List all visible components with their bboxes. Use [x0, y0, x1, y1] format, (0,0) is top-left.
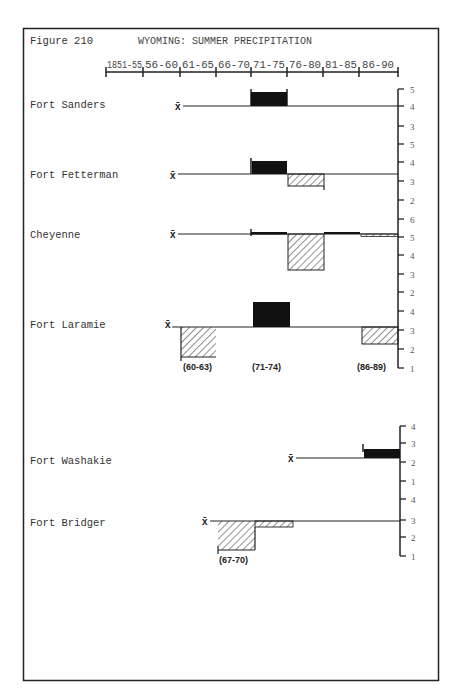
bar-below-mean — [288, 174, 324, 186]
axis-tick-label: 1 — [410, 364, 415, 374]
bar-below-mean — [288, 234, 324, 270]
time-axis: 1851-55 56-60 61-65 66-70 71-75 76-80 81… — [106, 60, 398, 77]
bar-below-mean — [181, 327, 216, 357]
period-label: 56-60 — [145, 60, 178, 71]
axis-tick-label: 1 — [411, 552, 416, 562]
axis-tick-label: 3 — [410, 270, 415, 280]
period-label: 86-90 — [362, 60, 394, 71]
station-fort-laramie: Fort Laramie x̄ (60-63) (71-74) (86-89) — [30, 302, 398, 372]
bar-above-mean — [324, 232, 360, 234]
bar-above-mean — [364, 449, 400, 458]
axis-tick-label: 4 — [410, 307, 415, 317]
mean-symbol: x̄ — [202, 516, 208, 527]
axis-tick-label: 2 — [410, 288, 415, 298]
period-annotation: (67-70) — [219, 555, 248, 565]
period-annotation: (86-89) — [357, 362, 386, 372]
mean-symbol: x̄ — [170, 170, 176, 181]
bar-above-mean — [253, 302, 290, 327]
station-cheyenne: Cheyenne x̄ — [30, 229, 398, 270]
bar-above-mean — [251, 92, 287, 106]
figure-title: WYOMING: SUMMER PRECIPITATION — [138, 36, 312, 47]
period-annotation: (71-74) — [252, 362, 281, 372]
period-label: 61-65 — [182, 60, 214, 71]
figure-number: Figure 210 — [30, 35, 93, 47]
period-label: 1851-55 — [107, 60, 142, 71]
period-label: 66-70 — [218, 60, 250, 71]
mean-symbol: x̄ — [288, 453, 294, 464]
station-fort-fetterman: Fort Fetterman x̄ — [30, 158, 398, 190]
station-label: Fort Bridger — [30, 517, 106, 529]
axis-tick-label: 4 — [410, 102, 415, 112]
axis-tick-label: 3 — [410, 177, 415, 187]
value-axis-lower: 4 3 2 1 4 3 2 1 — [400, 422, 416, 562]
axis-tick-label: 2 — [411, 533, 416, 543]
value-axis-upper: 5 4 3 5 4 3 2 6 5 4 3 2 4 3 2 1 — [398, 85, 415, 374]
station-label: Fort Laramie — [30, 319, 106, 331]
bar-below-mean — [362, 327, 398, 344]
bar-below-mean — [218, 521, 255, 550]
axis-tick-label: 5 — [410, 140, 415, 150]
period-label: 71-75 — [253, 60, 285, 71]
bar-above-mean — [251, 232, 287, 235]
bar-above-mean — [252, 161, 287, 174]
station-label: Fort Fetterman — [30, 169, 118, 181]
station-fort-bridger: Fort Bridger x̄ (67-70) — [30, 516, 400, 565]
bar-below-mean — [255, 521, 293, 527]
axis-tick-label: 6 — [410, 215, 415, 225]
station-fort-washakie: Fort Washakie x̄ — [30, 444, 400, 467]
station-label: Cheyenne — [30, 229, 80, 241]
period-label: 76-80 — [289, 60, 321, 71]
axis-tick-label: 2 — [410, 345, 415, 355]
station-label: Fort Washakie — [30, 455, 112, 467]
axis-tick-label: 3 — [410, 122, 415, 132]
mean-symbol: x̄ — [165, 319, 171, 330]
axis-tick-label: 3 — [411, 439, 416, 449]
axis-tick-label: 5 — [410, 233, 415, 243]
station-fort-sanders: Fort Sanders x̄ — [30, 89, 398, 112]
axis-tick-label: 4 — [411, 422, 416, 432]
station-label: Fort Sanders — [30, 99, 106, 111]
axis-tick-label: 1 — [411, 477, 416, 487]
axis-tick-label: 3 — [410, 326, 415, 336]
axis-tick-label: 5 — [410, 85, 415, 95]
axis-tick-label: 4 — [410, 158, 415, 168]
period-annotation: (60-63) — [183, 362, 212, 372]
axis-tick-label: 2 — [411, 458, 416, 468]
axis-tick-label: 2 — [410, 196, 415, 206]
bar-below-mean — [361, 234, 398, 237]
figure-frame — [24, 29, 439, 681]
period-label: 81-85 — [325, 60, 357, 71]
figure: Figure 210 WYOMING: SUMMER PRECIPITATION… — [0, 0, 461, 699]
mean-symbol: x̄ — [175, 101, 181, 112]
axis-tick-label: 3 — [411, 516, 416, 526]
axis-tick-label: 4 — [410, 251, 415, 261]
axis-tick-label: 4 — [411, 495, 416, 505]
mean-symbol: x̄ — [170, 229, 176, 240]
